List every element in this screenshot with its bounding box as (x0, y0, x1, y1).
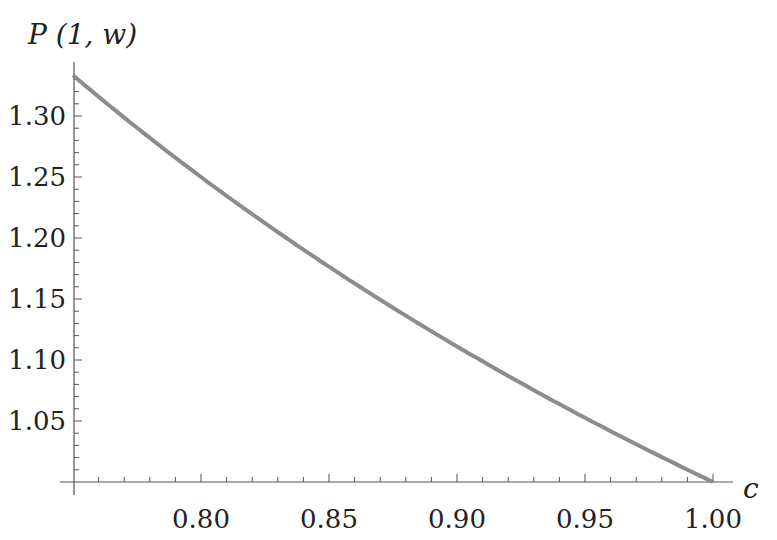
chart: 0.800.850.900.951.001.051.101.151.201.25… (0, 0, 777, 540)
x-tick-label: 1.00 (684, 504, 742, 534)
x-tick-label: 0.95 (556, 504, 614, 534)
x-tick-label: 0.80 (172, 504, 230, 534)
x-tick-label: 0.85 (300, 504, 358, 534)
y-tick-label: 1.15 (8, 284, 66, 314)
plot-area: 0.800.850.900.951.001.051.101.151.201.25… (0, 0, 777, 540)
curve (73, 75, 713, 482)
y-tick-label: 1.20 (8, 223, 66, 253)
y-tick-label: 1.05 (8, 406, 66, 436)
y-axis-label: P (1, w) (27, 18, 137, 51)
y-tick-label: 1.10 (8, 345, 66, 375)
x-axis-label: c (743, 472, 759, 505)
y-tick-label: 1.30 (8, 101, 66, 131)
y-tick-label: 1.25 (8, 162, 66, 192)
x-tick-label: 0.90 (428, 504, 486, 534)
